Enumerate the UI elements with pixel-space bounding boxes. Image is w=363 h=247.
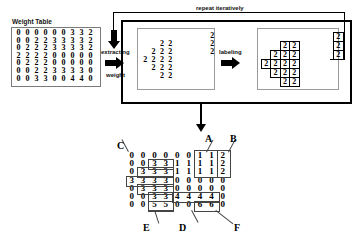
region-outline-9: [148, 201, 174, 212]
weight-table-cell: 3: [32, 75, 41, 83]
iter-box-bottom: [121, 102, 352, 104]
weight-table-cell: 0: [23, 75, 32, 83]
caption-labeling: labeling: [219, 49, 242, 55]
extracted-cell: 2: [149, 80, 157, 88]
leader-e: [154, 210, 159, 224]
extracted-cell: 2: [175, 80, 183, 88]
iter-box-left: [121, 20, 123, 104]
extracted-cell: 2: [208, 80, 216, 88]
extracted-cell: 2: [183, 80, 191, 88]
caption-repeat-iteratively: repeat iteratively: [196, 5, 244, 11]
weight-table-grid: 0000003320022333320222333322222000000222…: [14, 29, 95, 82]
extracted-weight-grid: 2222222222222222222222222222222222222222…: [141, 32, 217, 88]
loop-return-line: [330, 59, 345, 60]
weight-table-cell: 3: [41, 75, 50, 83]
iter-box-right: [350, 20, 352, 104]
weight-table-cell: 0: [59, 75, 68, 83]
labeled-cell: 2: [262, 60, 271, 69]
weight-table-title: Weight Table: [12, 18, 52, 25]
iter-box-top: [121, 20, 352, 22]
callout-f: F: [234, 222, 240, 233]
labeled-cell: 2: [262, 87, 271, 96]
callout-a: A: [205, 133, 212, 144]
labeled-cell: 2: [316, 87, 324, 96]
arrowhead-to-result: [196, 124, 206, 132]
extracted-cell: 2: [166, 80, 174, 88]
caption-extracting: extracting: [101, 49, 130, 55]
extracted-cell: 2: [158, 80, 166, 88]
connector-down-to-result: [200, 102, 202, 126]
labeled-cell: 2: [325, 87, 334, 96]
table-row: 222222222: [262, 87, 344, 96]
extracted-cell: 2: [141, 80, 149, 88]
callout-c: C: [117, 140, 124, 151]
labeled-cell: 2: [308, 87, 316, 96]
labeled-cell: 2: [271, 87, 280, 96]
labeled-cell: 2: [290, 87, 299, 96]
weight-table-cell: 4: [77, 75, 86, 83]
callout-d: D: [179, 222, 186, 233]
loop-top-line: [113, 12, 345, 13]
weight-table-cell: 0: [50, 75, 59, 83]
region-outline-2: [217, 150, 231, 178]
extracted-cell: 2: [200, 80, 208, 88]
labeled-cell: 2: [299, 87, 308, 96]
weight-table-cell: 0: [14, 75, 23, 83]
labeled-grid: 2222222222222222222222222222222222222222…: [261, 32, 344, 95]
weight-table-cell: 4: [68, 75, 77, 83]
leader-f: [215, 210, 233, 224]
labeled-cell: 2: [271, 69, 280, 78]
extracted-cell: 2: [191, 80, 199, 88]
labeled-cell: 2: [334, 87, 343, 96]
callout-e: E: [143, 222, 150, 233]
table-row: 003300440: [14, 75, 95, 83]
result-table-cell: 0: [126, 200, 137, 208]
table-row: 222222222: [141, 80, 217, 88]
figure-canvas: Weight Table 000000332002233332022233332…: [0, 0, 363, 247]
callout-b: B: [230, 133, 237, 144]
weight-table-cell: 0: [86, 75, 95, 83]
labeled-cell: 2: [280, 87, 289, 96]
